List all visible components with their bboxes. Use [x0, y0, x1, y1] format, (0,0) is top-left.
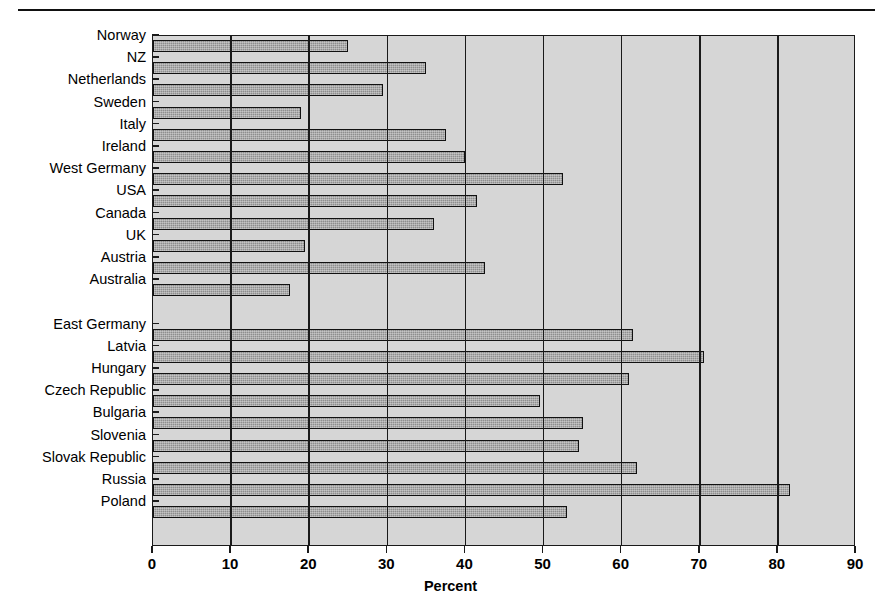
bar [153, 284, 290, 296]
y-axis-tick [152, 123, 159, 125]
y-axis-tick [152, 101, 159, 103]
x-axis-tick-80 [776, 546, 778, 553]
bar [153, 240, 305, 252]
y-axis-tick [152, 278, 159, 280]
bar [153, 484, 790, 496]
y-axis-tick [152, 78, 159, 80]
y-axis-label-poland: Poland [0, 494, 146, 509]
y-axis-tick [152, 145, 159, 147]
y-axis-label-hungary: Hungary [0, 361, 146, 376]
y-axis-label-netherlands: Netherlands [0, 72, 146, 87]
bar [153, 84, 383, 96]
x-axis-tick-10 [229, 546, 231, 553]
bar [153, 262, 485, 274]
y-axis-label-bulgaria: Bulgaria [0, 405, 146, 420]
chart-page: NorwayNZNetherlandsSwedenItalyIrelandWes… [0, 0, 893, 616]
y-axis-label-ireland: Ireland [0, 139, 146, 154]
bar [153, 506, 567, 518]
x-axis-tick-label-50: 50 [523, 555, 563, 572]
x-axis-tick-label-70: 70 [679, 555, 719, 572]
x-axis-tick-label-90: 90 [835, 555, 875, 572]
x-axis-tick-label-60: 60 [601, 555, 641, 572]
bar [153, 395, 540, 407]
bar [153, 440, 579, 452]
y-axis-tick [152, 367, 159, 369]
top-divider-rule [18, 9, 875, 11]
plot-area [152, 35, 855, 546]
bar [153, 62, 426, 74]
bar [153, 373, 629, 385]
y-axis-tick [152, 256, 159, 258]
x-axis-tick-label-10: 10 [210, 555, 250, 572]
y-axis-label-nz: NZ [0, 50, 146, 65]
y-axis-tick [152, 478, 159, 480]
bar [153, 40, 348, 52]
y-axis-tick [152, 389, 159, 391]
x-axis-tick-30 [386, 546, 388, 553]
y-axis-label-latvia: Latvia [0, 339, 146, 354]
grid-line-80 [777, 36, 779, 545]
y-axis-tick [152, 323, 159, 325]
y-axis-label-italy: Italy [0, 117, 146, 132]
bar [153, 195, 477, 207]
bar [153, 462, 637, 474]
y-axis-label-usa: USA [0, 183, 146, 198]
bar [153, 129, 446, 141]
bar [153, 173, 563, 185]
bar [153, 218, 434, 230]
x-axis-tick-label-30: 30 [366, 555, 406, 572]
y-axis-category-labels: NorwayNZNetherlandsSwedenItalyIrelandWes… [0, 35, 146, 546]
y-axis-label-canada: Canada [0, 206, 146, 221]
bar [153, 107, 301, 119]
y-axis-label-austria: Austria [0, 250, 146, 265]
grid-line-50 [543, 36, 545, 545]
grid-line-60 [621, 36, 623, 545]
x-axis-title: Percent [0, 578, 893, 594]
x-axis-tick-label-0: 0 [132, 555, 172, 572]
y-axis-tick [152, 167, 159, 169]
bar [153, 329, 633, 341]
x-axis-tick-label-40: 40 [444, 555, 484, 572]
y-axis-tick [152, 434, 159, 436]
bars-container [153, 36, 854, 545]
y-axis-label-slovenia: Slovenia [0, 428, 146, 443]
x-axis-tick-40 [464, 546, 466, 553]
y-axis-label-sweden: Sweden [0, 95, 146, 110]
x-axis-tick-70 [698, 546, 700, 553]
x-axis-tick-20 [307, 546, 309, 553]
y-axis-label-east-germany: East Germany [0, 317, 146, 332]
x-axis-tick-90 [854, 546, 856, 553]
x-axis-tick-label-80: 80 [757, 555, 797, 572]
grid-line-20 [308, 36, 310, 545]
bar [153, 417, 583, 429]
y-axis-tick [152, 234, 159, 236]
y-axis-tick [152, 56, 159, 58]
y-axis-label-russia: Russia [0, 472, 146, 487]
y-axis-tick [152, 345, 159, 347]
grid-line-40 [465, 36, 467, 545]
x-axis-tick-0 [151, 546, 153, 553]
grid-line-30 [387, 36, 389, 545]
y-axis-tick [152, 500, 159, 502]
y-axis-label-czech-republic: Czech Republic [0, 383, 146, 398]
y-axis-tick [152, 212, 159, 214]
y-axis-label-slovak-republic: Slovak Republic [0, 450, 146, 465]
grid-line-10 [230, 36, 232, 545]
y-axis-tick [152, 34, 159, 36]
y-axis-label-norway: Norway [0, 28, 146, 43]
y-axis-label-west-germany: West Germany [0, 161, 146, 176]
y-axis-label-uk: UK [0, 228, 146, 243]
x-axis-title-label: Percent [424, 578, 477, 594]
y-axis-tick [152, 456, 159, 458]
y-axis-tick [152, 189, 159, 191]
grid-line-70 [699, 36, 701, 545]
y-axis-tick [152, 411, 159, 413]
x-axis-tick-50 [542, 546, 544, 553]
y-axis-label-australia: Australia [0, 272, 146, 287]
x-axis-tick-label-20: 20 [288, 555, 328, 572]
x-axis-tick-60 [620, 546, 622, 553]
